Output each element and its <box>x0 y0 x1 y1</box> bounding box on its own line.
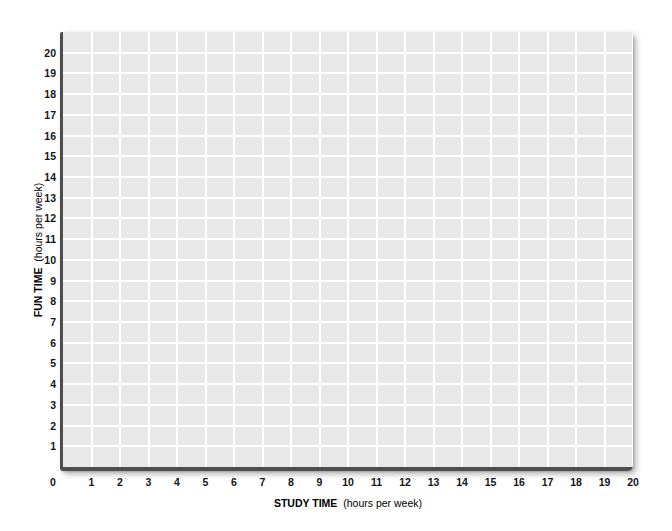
horizontal-gridline <box>63 404 633 406</box>
vertical-gridline <box>547 32 549 467</box>
vertical-gridline <box>433 32 435 467</box>
y-tick-label: 17 <box>30 108 56 122</box>
y-tick-label: 4 <box>30 377 56 391</box>
x-tick-label: 18 <box>562 475 590 489</box>
x-axis-title: STUDY TIME (hours per week) <box>63 497 633 509</box>
x-tick-label: 13 <box>420 475 448 489</box>
x-tick-label: 2 <box>106 475 134 489</box>
y-tick-label: 10 <box>30 253 56 267</box>
x-axis-title-unit: (hours per week) <box>343 497 422 509</box>
horizontal-gridline <box>63 280 633 282</box>
vertical-gridline <box>518 32 520 467</box>
y-tick-label: 15 <box>30 149 56 163</box>
vertical-gridline <box>148 32 150 467</box>
y-tick-label: 5 <box>30 356 56 370</box>
plot-grid <box>63 32 633 467</box>
x-tick-label: 5 <box>192 475 220 489</box>
x-tick-label: 1 <box>78 475 106 489</box>
horizontal-gridline <box>63 383 633 385</box>
x-tick-label: 16 <box>505 475 533 489</box>
horizontal-gridline <box>63 300 633 302</box>
x-tick-label: 19 <box>591 475 619 489</box>
chart-canvas: FUN TIME (hours per week) 01234567891011… <box>0 0 672 531</box>
y-tick-label: 7 <box>30 315 56 329</box>
y-tick-label: 12 <box>30 211 56 225</box>
x-tick-label: 11 <box>363 475 391 489</box>
x-tick-label: 15 <box>477 475 505 489</box>
horizontal-gridline <box>63 362 633 364</box>
vertical-gridline <box>604 32 606 467</box>
horizontal-gridline <box>63 238 633 240</box>
y-tick-label: 1 <box>30 439 56 453</box>
vertical-gridline <box>290 32 292 467</box>
horizontal-gridline <box>63 342 633 344</box>
vertical-gridline <box>575 32 577 467</box>
y-tick-label: 8 <box>30 294 56 308</box>
horizontal-gridline <box>63 155 633 157</box>
x-tick-label: 9 <box>306 475 334 489</box>
vertical-gridline <box>262 32 264 467</box>
y-tick-label: 19 <box>30 66 56 80</box>
vertical-gridline <box>376 32 378 467</box>
vertical-gridline <box>632 32 633 467</box>
horizontal-gridline <box>63 114 633 116</box>
vertical-gridline <box>461 32 463 467</box>
horizontal-gridline <box>63 72 633 74</box>
x-tick-label: 20 <box>619 475 647 489</box>
vertical-gridline <box>91 32 93 467</box>
horizontal-gridline <box>63 197 633 199</box>
x-tick-label: 8 <box>277 475 305 489</box>
vertical-gridline <box>319 32 321 467</box>
x-tick-label: 10 <box>334 475 362 489</box>
horizontal-gridline <box>63 217 633 219</box>
horizontal-gridline <box>63 93 633 95</box>
vertical-gridline <box>233 32 235 467</box>
x-tick-label: 7 <box>249 475 277 489</box>
plot-area <box>60 32 633 471</box>
y-tick-label: 20 <box>30 46 56 60</box>
vertical-gridline <box>119 32 121 467</box>
x-tick-label: 3 <box>135 475 163 489</box>
y-tick-label: 9 <box>30 274 56 288</box>
y-tick-label: 18 <box>30 87 56 101</box>
y-tick-label: 16 <box>30 129 56 143</box>
x-axis-title-main: STUDY TIME <box>274 497 337 509</box>
x-tick-label: 6 <box>220 475 248 489</box>
x-tick-label: 0 <box>39 475 67 489</box>
y-tick-label: 11 <box>30 232 56 246</box>
vertical-gridline <box>404 32 406 467</box>
horizontal-gridline <box>63 259 633 261</box>
y-tick-label: 13 <box>30 191 56 205</box>
vertical-gridline <box>490 32 492 467</box>
y-tick-label: 14 <box>30 170 56 184</box>
horizontal-gridline <box>63 321 633 323</box>
vertical-gridline <box>347 32 349 467</box>
x-tick-label: 17 <box>534 475 562 489</box>
x-tick-label: 12 <box>391 475 419 489</box>
vertical-gridline <box>176 32 178 467</box>
x-tick-label: 14 <box>448 475 476 489</box>
x-tick-label: 4 <box>163 475 191 489</box>
horizontal-gridline <box>63 135 633 137</box>
y-tick-label: 3 <box>30 398 56 412</box>
horizontal-gridline <box>63 52 633 54</box>
vertical-gridline <box>205 32 207 467</box>
horizontal-gridline <box>63 176 633 178</box>
y-tick-label: 2 <box>30 419 56 433</box>
y-tick-label: 6 <box>30 336 56 350</box>
horizontal-gridline <box>63 445 633 447</box>
horizontal-gridline <box>63 425 633 427</box>
